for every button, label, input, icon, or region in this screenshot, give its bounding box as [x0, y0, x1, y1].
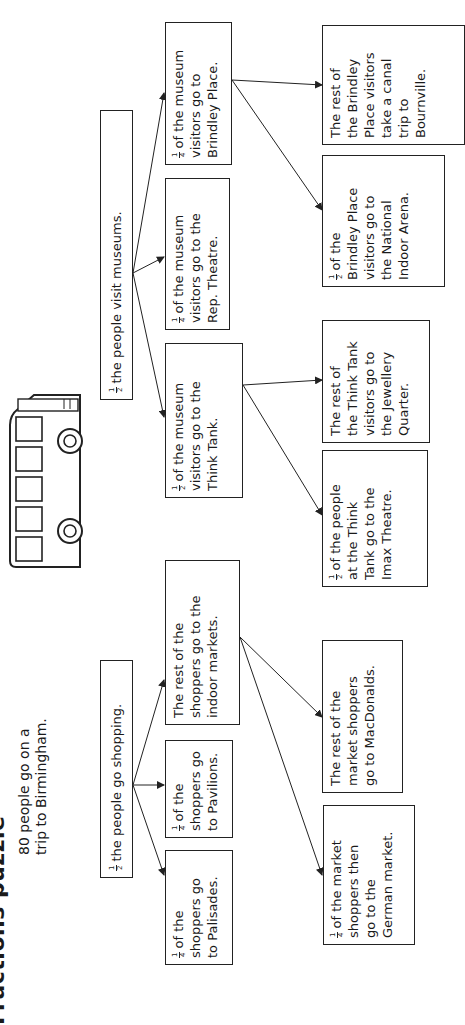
box-line: Think Tank. — [204, 350, 221, 491]
fraction-denominator: 2 — [117, 388, 124, 392]
box-line: Indoor Arena. — [395, 162, 412, 280]
box-line: of the market — [329, 840, 344, 928]
box-line: the Brindley — [344, 32, 361, 138]
box-line: trip to — [395, 32, 412, 138]
fraction: 14 — [172, 317, 187, 323]
fraction: 12 — [109, 387, 124, 393]
box-line: The rest of — [327, 32, 344, 138]
box-line: the Jewellery — [378, 327, 395, 436]
box-line: The rest of the — [327, 647, 344, 786]
box-line: visitors go to — [361, 327, 378, 436]
box-brindley-place: 14of the museum visitors go to Brindley … — [165, 22, 232, 165]
box-line: German market. — [379, 812, 396, 938]
box-bournville: The rest of the Brindley Place visitors … — [322, 25, 465, 145]
box-jewellery-quarter: The rest of the Think Tank visitors go t… — [322, 320, 430, 443]
box-line: the National — [378, 162, 395, 280]
fraction-denominator: 2 — [337, 575, 344, 579]
box-text: the people go shopping. — [108, 704, 125, 862]
fraction-denominator: 2 — [117, 866, 124, 870]
intro-line-1: 80 people go on a — [16, 705, 33, 855]
box-line: Brindley Place. — [204, 29, 221, 158]
box-indoor-markets: The rest of the shoppers go to the indoo… — [165, 560, 240, 725]
box-imax: 12of the people at the Think Tank go to … — [322, 450, 428, 587]
fraction: 12 — [329, 574, 344, 580]
box-line: shoppers go to the — [187, 567, 204, 718]
intro-line-2: trip to Birmingham. — [33, 705, 50, 855]
box-line: take a canal — [378, 32, 395, 138]
box-line: of the museum — [171, 383, 186, 482]
box-line: of the — [328, 233, 343, 271]
fraction-denominator: 4 — [180, 153, 187, 157]
box-line: market shoppers — [344, 647, 361, 786]
fraction-denominator: 4 — [338, 933, 345, 937]
box-line: Tank go to the — [361, 457, 378, 580]
fraction: 14 — [172, 952, 187, 958]
fraction-denominator: 2 — [337, 275, 344, 279]
box-line: to Palisades. — [204, 857, 221, 958]
box-line: shoppers then — [345, 812, 362, 938]
fraction: 12 — [109, 865, 124, 871]
box-line: of the — [171, 784, 186, 822]
box-line: The rest of the — [170, 567, 187, 718]
box-line: Brindley Place — [344, 162, 361, 280]
box-pavilions: 14of the shoppers go to Pavilions. — [165, 740, 233, 838]
box-macdonalds: The rest of the market shoppers go to Ma… — [322, 640, 403, 793]
box-think-tank: 12of the museum visitors go to the Think… — [165, 343, 243, 498]
box-line: Bournville. — [412, 32, 429, 138]
box-line: visitors go to the — [187, 350, 204, 491]
box-line: go to the — [362, 812, 379, 938]
fraction: 14 — [172, 825, 187, 831]
fraction: 12 — [172, 485, 187, 491]
box-line: of the museum — [171, 50, 186, 149]
box-line: visitors go to — [187, 29, 204, 158]
box-line: shoppers go — [187, 857, 204, 958]
fraction: 12 — [329, 274, 344, 280]
box-german-market: 14of the market shoppers then go to the … — [323, 805, 415, 945]
intro-text: 80 people go on a trip to Birmingham. — [16, 705, 50, 855]
box-line: shoppers go — [187, 747, 204, 831]
fraction-denominator: 2 — [180, 486, 187, 490]
box-line: Quarter. — [395, 327, 412, 436]
box-line: of the — [171, 911, 186, 949]
box-line: the Think Tank — [344, 327, 361, 436]
box-line: indoor markets. — [204, 567, 221, 718]
fraction-denominator: 4 — [180, 953, 187, 957]
fraction-denominator: 4 — [180, 318, 187, 322]
box-line: of the museum — [171, 215, 186, 314]
box-line: visitors go to the — [187, 185, 204, 323]
page-title: Fractions puzzle — [0, 816, 9, 1025]
fraction: 14 — [330, 932, 345, 938]
bus-icon — [4, 387, 84, 575]
box-museums-root: 12 the people visit museums. — [100, 110, 133, 400]
box-line: at the Think — [344, 457, 361, 580]
fraction-denominator: 4 — [180, 826, 187, 830]
box-palisades: 14of the shoppers go to Palisades. — [165, 850, 233, 965]
box-line: to Pavilions. — [204, 747, 221, 831]
box-line: Imax Theatre. — [378, 457, 395, 580]
box-line: Rep. Theatre. — [204, 185, 221, 323]
fraction: 14 — [172, 152, 187, 158]
box-line: go to MacDonalds. — [361, 647, 378, 786]
box-line: The rest of — [327, 327, 344, 436]
box-text: the people visit museums. — [108, 211, 125, 383]
box-line: of the people — [328, 484, 343, 570]
box-national-indoor-arena: 12of the Brindley Place visitors go to t… — [322, 155, 445, 287]
box-line: Place visitors — [361, 32, 378, 138]
box-rep-theatre: 14of the museum visitors go to the Rep. … — [165, 178, 230, 330]
box-shopping-root: 12 the people go shopping. — [100, 660, 133, 878]
box-line: visitors go to — [361, 162, 378, 280]
